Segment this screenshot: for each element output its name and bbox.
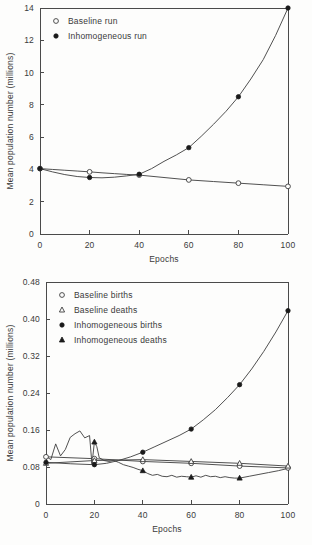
legend-marker-baseline-run	[54, 19, 59, 24]
y-tick-label: 4	[29, 164, 34, 174]
y-tick-label: 0.24	[23, 388, 40, 398]
y-tick-label: 0.16	[23, 425, 40, 435]
series-line-inhomogeneous-births	[46, 311, 288, 465]
x-tick-label: 80	[233, 240, 243, 250]
legend-label-inhomogeneous-births: Inhomogeneous births	[74, 320, 162, 330]
series-line-inhomogeneous-deaths	[46, 431, 288, 478]
marker-inhomogeneous-run	[236, 95, 240, 99]
marker-inhomogeneous-births	[92, 462, 96, 466]
plot-frame	[46, 282, 288, 504]
x-tick-label: 60	[186, 510, 196, 520]
marker-inhomogeneous-deaths	[92, 439, 97, 444]
x-tick-label: 60	[184, 240, 194, 250]
x-tick-label: 100	[281, 240, 296, 250]
y-axis-title: Mean population number (millions)	[5, 325, 15, 462]
x-tick-label: 40	[138, 510, 148, 520]
x-tick-label: 0	[44, 510, 49, 520]
y-axis-title: Mean population number (millions)	[5, 53, 15, 190]
marker-baseline-run	[286, 184, 291, 189]
chart-top-population: 02468101214020406080100EpochsMean popula…	[0, 0, 312, 272]
marker-inhomogeneous-births	[286, 308, 290, 312]
y-tick-label: 0.48	[23, 277, 40, 287]
legend-marker-inhomogeneous-deaths	[59, 337, 64, 342]
y-tick-label: 2	[29, 197, 34, 207]
series-line-baseline-run	[40, 169, 288, 187]
legend-label-inhomogeneous-deaths: Inhomogeneous deaths	[74, 335, 167, 345]
marker-inhomogeneous-run	[187, 145, 191, 149]
x-tick-label: 40	[134, 240, 144, 250]
series-line-baseline-births	[46, 457, 288, 468]
legend-marker-inhomogeneous-run	[54, 34, 58, 38]
marker-inhomogeneous-births	[189, 427, 193, 431]
y-tick-label: 14	[24, 3, 34, 13]
marker-inhomogeneous-births	[237, 382, 241, 386]
chart-top-svg: 02468101214020406080100EpochsMean popula…	[0, 0, 312, 272]
y-tick-label: 10	[24, 68, 34, 78]
marker-inhomogeneous-run	[87, 175, 91, 179]
marker-baseline-run	[87, 169, 92, 174]
chart-bottom-svg: 00.080.160.240.320.400.48020406080100Epo…	[0, 272, 312, 545]
legend-marker-baseline-births	[60, 293, 65, 298]
x-tick-label: 80	[235, 510, 245, 520]
legend-label-baseline-deaths: Baseline deaths	[74, 305, 138, 315]
x-tick-label: 100	[281, 510, 296, 520]
marker-baseline-run	[236, 181, 241, 186]
x-axis-title: Epochs	[149, 254, 179, 264]
y-tick-label: 0.08	[23, 462, 40, 472]
legend-label-baseline-births: Baseline births	[74, 290, 133, 300]
marker-baseline-run	[186, 178, 191, 183]
marker-inhomogeneous-births	[44, 460, 48, 464]
y-tick-label: 0.40	[23, 314, 40, 324]
y-tick-label: 8	[29, 100, 34, 110]
plot-frame	[40, 8, 288, 234]
marker-inhomogeneous-run	[137, 172, 141, 176]
x-tick-label: 0	[38, 240, 43, 250]
y-tick-label: 0	[35, 499, 40, 509]
marker-baseline-births	[44, 454, 49, 459]
marker-inhomogeneous-run	[38, 166, 42, 170]
series-line-baseline-deaths	[46, 460, 288, 466]
legend-marker-inhomogeneous-births	[60, 323, 64, 327]
legend-marker-baseline-deaths	[59, 307, 64, 312]
marker-inhomogeneous-births	[141, 450, 145, 454]
x-axis-title: Epochs	[152, 524, 182, 534]
figure-page: 02468101214020406080100EpochsMean popula…	[0, 0, 312, 545]
y-tick-label: 0	[29, 229, 34, 239]
x-tick-label: 20	[85, 240, 95, 250]
y-tick-label: 12	[24, 35, 34, 45]
chart-bottom-births-deaths: 00.080.160.240.320.400.48020406080100Epo…	[0, 272, 312, 545]
marker-inhomogeneous-run	[286, 6, 290, 10]
y-tick-label: 0.32	[23, 351, 40, 361]
legend-label-inhomogeneous-run: Inhomogeneous run	[68, 31, 147, 41]
legend-label-baseline-run: Baseline run	[68, 16, 118, 26]
y-tick-label: 6	[29, 132, 34, 142]
x-tick-label: 20	[89, 510, 99, 520]
